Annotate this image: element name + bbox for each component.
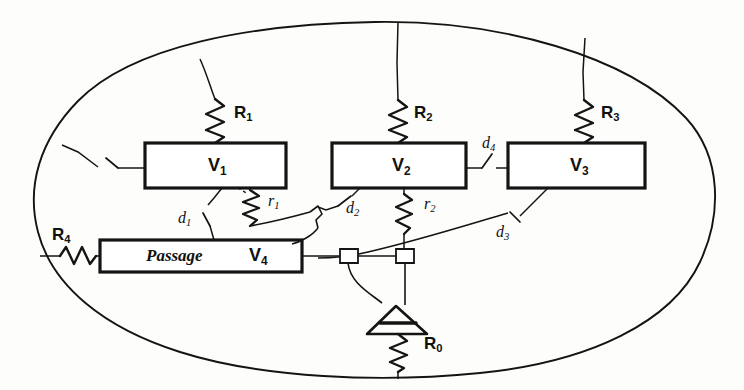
resistor-r1-small-symbol	[243, 190, 259, 226]
switch-label-d1: d1	[178, 210, 191, 229]
ground-triangle-icon	[367, 306, 427, 334]
resistor-r2-small-symbol	[396, 194, 412, 234]
switch-d3-blade[interactable]	[510, 212, 520, 222]
box-label-passage: Passage	[146, 247, 203, 264]
wire-rr1-to-bus	[250, 212, 310, 226]
resistor-label-r4: R4	[52, 226, 71, 246]
box-label-v4: V4	[249, 246, 268, 267]
resistor-label-r1: R1	[234, 104, 253, 124]
resistor-label-r0: R0	[424, 335, 443, 355]
resistor-r4-symbol	[60, 247, 96, 264]
node-junction-b	[396, 249, 414, 263]
node-junction-a	[340, 249, 358, 263]
resistor-r2-symbol	[389, 100, 407, 143]
wire-d1-to-passage	[210, 226, 214, 240]
wire-d2-to-node	[318, 206, 338, 210]
switch-label-d3: d3	[496, 224, 509, 243]
resistor-label-r2: R2	[414, 104, 433, 124]
wire-top-to-r2	[397, 22, 398, 100]
resistor-r3-symbol	[575, 100, 593, 143]
resistor-r1-symbol	[206, 99, 224, 143]
resistor-label-r1-small: r1	[268, 193, 280, 212]
switch-d1-blade[interactable]	[203, 213, 210, 226]
circuit-schematic-svg	[0, 0, 744, 390]
wire-v1-to-d1	[208, 188, 222, 205]
wire-v3-to-d3	[520, 188, 548, 216]
wire-node-a-to-ground	[348, 263, 382, 303]
wire-ellipse-left-branch	[62, 145, 98, 167]
switch-label-d2: d2	[346, 200, 359, 219]
switch-unlabeled-blade[interactable]	[106, 158, 118, 168]
resistor-label-r2-small: r2	[424, 196, 436, 215]
wire-top-to-r3	[583, 38, 585, 100]
resistor-label-r3: R3	[601, 104, 620, 124]
box-label-v2: V2	[392, 156, 411, 177]
switch-label-d4: d4	[482, 135, 495, 154]
figure-canvas: V1 V2 V3 Passage V4 R1 R2 R3 R4 R0 r1 r2…	[0, 0, 744, 390]
enclosure-ellipse	[34, 22, 715, 378]
box-label-v1: V1	[208, 156, 227, 177]
switch-d4-blade[interactable]	[482, 154, 492, 168]
box-label-v3: V3	[570, 156, 589, 177]
resistor-r0-symbol	[390, 334, 407, 372]
wire-top-to-r1	[200, 59, 215, 99]
wire-bus-jog-left	[310, 206, 322, 228]
